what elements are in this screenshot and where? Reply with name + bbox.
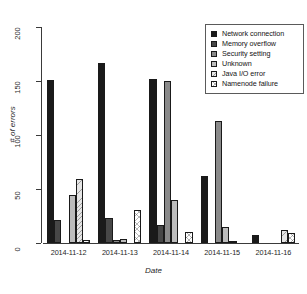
legend-item: Network connection xyxy=(209,29,299,39)
y-axis-tick-label: 50 xyxy=(0,184,34,194)
y-axis-tick xyxy=(36,135,41,136)
y-axis-tick-label: 200 xyxy=(0,22,34,32)
legend-swatch-icon xyxy=(211,51,217,57)
legend-item-label: Memory overflow xyxy=(222,39,276,49)
y-axis-line xyxy=(41,27,42,243)
x-axis-tick-label: 2014-11-16 xyxy=(248,248,299,257)
x-axis-line xyxy=(43,243,299,244)
legend-item-label: Security setting xyxy=(222,49,270,59)
legend-swatch-icon xyxy=(211,81,217,87)
legend-item-label: Java I/O error xyxy=(222,69,265,79)
y-axis-tick xyxy=(36,243,41,244)
y-axis-title: # of errors xyxy=(8,85,17,165)
bar xyxy=(105,218,112,243)
bar xyxy=(54,220,61,243)
y-axis-tick xyxy=(36,81,41,82)
x-axis-tick-label: 2014-11-13 xyxy=(94,248,145,257)
legend-item: Unknown xyxy=(209,59,299,69)
bar xyxy=(120,239,127,243)
bar xyxy=(215,121,222,243)
bar xyxy=(47,80,54,243)
bar xyxy=(171,200,178,243)
legend-swatch-icon xyxy=(211,31,217,37)
bar xyxy=(98,63,105,243)
legend-item: Memory overflow xyxy=(209,39,299,49)
bar xyxy=(222,227,229,243)
bar xyxy=(157,225,164,243)
legend-swatch-icon xyxy=(211,41,217,47)
bar-chart: # of errors 050100150200 2014-11-122014-… xyxy=(0,0,307,294)
x-axis-tick-label: 2014-11-12 xyxy=(43,248,94,257)
y-axis-tick-label: 0 xyxy=(0,238,34,248)
legend-swatch-icon xyxy=(211,71,217,77)
bar xyxy=(83,240,90,243)
bar xyxy=(134,210,141,243)
bar xyxy=(185,232,192,243)
bar xyxy=(201,176,208,243)
legend-item-label: Namenode failure xyxy=(222,79,278,89)
bar xyxy=(164,81,171,243)
x-axis-title: Date xyxy=(0,266,307,275)
y-axis-tick xyxy=(36,189,41,190)
bar xyxy=(149,79,156,243)
bar xyxy=(229,241,236,243)
legend-item: Namenode failure xyxy=(209,79,299,89)
legend-item: Security setting xyxy=(209,49,299,59)
bar xyxy=(281,230,288,243)
y-axis-tick-label: 100 xyxy=(0,130,34,140)
bar xyxy=(113,240,120,243)
chart-legend: Network connectionMemory overflowSecurit… xyxy=(205,24,304,94)
bar xyxy=(69,195,76,243)
legend-item-label: Unknown xyxy=(222,59,252,69)
x-axis-tick-label: 2014-11-14 xyxy=(145,248,196,257)
legend-swatch-icon xyxy=(211,61,217,67)
legend-item: Java I/O error xyxy=(209,69,299,79)
legend-item-label: Network connection xyxy=(222,29,284,39)
bar xyxy=(76,179,83,243)
x-axis-tick-label: 2014-11-15 xyxy=(197,248,248,257)
y-axis-tick xyxy=(36,27,41,28)
y-axis-tick-label: 150 xyxy=(0,76,34,86)
bar xyxy=(288,233,295,243)
bar xyxy=(252,235,259,243)
